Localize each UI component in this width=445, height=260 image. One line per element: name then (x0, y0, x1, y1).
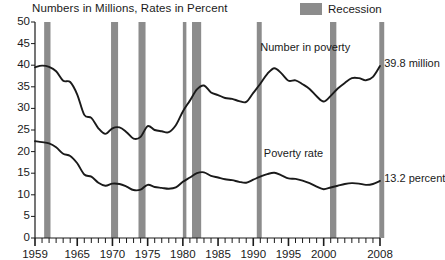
chart-annotation: Poverty rate (264, 147, 323, 159)
recession-legend-label: Recession (328, 3, 382, 15)
x-tick-label: 1985 (205, 248, 231, 260)
chart-title: Numbers in Millions, Rates in Percent (32, 2, 227, 14)
series-line (35, 141, 380, 190)
chart-annotation: Number in poverty (260, 41, 350, 53)
y-tick-label: 30 (4, 102, 30, 113)
recession-band (192, 22, 201, 238)
x-tick-label: 1990 (240, 248, 266, 260)
chart-annotation: 39.8 million (384, 57, 440, 69)
recession-legend-swatch (300, 3, 322, 15)
x-tick-label: 1995 (276, 248, 302, 260)
y-tick-label: 10 (4, 189, 30, 200)
series-line (35, 66, 380, 139)
x-tick-label: 1980 (170, 248, 196, 260)
recession-band (330, 22, 336, 238)
recession-band (379, 22, 384, 238)
x-tick-label: 1970 (100, 248, 126, 260)
y-tick-label: 0 (4, 232, 30, 243)
y-tick-label: 20 (4, 146, 30, 157)
y-axis-labels: 05101520253035404550 (0, 0, 30, 260)
x-tick-label: 2000 (311, 248, 337, 260)
y-tick-label: 40 (4, 59, 30, 70)
recession-band (44, 22, 50, 238)
recession-band (111, 22, 118, 238)
x-tick-label: 1975 (135, 248, 161, 260)
legend: Recession (300, 2, 382, 16)
x-tick-label: 1965 (64, 248, 90, 260)
y-tick-label: 45 (4, 38, 30, 49)
y-tick-label: 50 (4, 16, 30, 27)
chart-annotation: 13.2 percent (384, 172, 445, 184)
x-tick-label: 2008 (367, 248, 393, 260)
y-tick-label: 15 (4, 167, 30, 178)
recession-band (257, 22, 262, 238)
y-tick-label: 35 (4, 81, 30, 92)
y-tick-label: 5 (4, 210, 30, 221)
recession-band (183, 22, 187, 238)
y-tick-label: 25 (4, 124, 30, 135)
